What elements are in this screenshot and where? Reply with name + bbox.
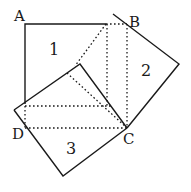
vertex-label-d: D (12, 125, 24, 143)
vertex-label-c: C (123, 130, 134, 148)
dotted-line-apex-to-inner (75, 24, 106, 66)
vertex-label-b: B (129, 13, 140, 31)
vertex-label-a: A (13, 7, 25, 25)
region-label-3: 3 (66, 139, 76, 158)
inner-square-outline (14, 64, 127, 128)
region-label-2: 2 (141, 61, 151, 80)
dotted-line-inner-diagonal (67, 73, 127, 128)
square-1-outline (25, 24, 106, 104)
region-label-1: 1 (49, 40, 59, 59)
pythagorean-diagram: A B C D 1 2 3 (0, 0, 191, 192)
